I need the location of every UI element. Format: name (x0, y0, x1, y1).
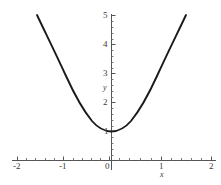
y-axis-label: y (103, 83, 107, 92)
x-axis (12, 157, 216, 161)
y-tick-label-3: 3 (103, 68, 108, 78)
y-tick-label-4: 4 (103, 39, 108, 49)
plot-canvas (0, 0, 221, 185)
x-tick-label-2: 2 (209, 161, 214, 171)
x-axis-label: x (160, 170, 164, 179)
x-tick-label-0: 0 (105, 161, 110, 171)
y-axis (112, 14, 116, 170)
x-tick-label-neg1: -1 (59, 161, 67, 171)
y-tick-label-5: 5 (103, 10, 108, 20)
x-axis-major-ticks (18, 157, 212, 161)
y-tick-label-2: 2 (103, 97, 108, 107)
x-tick-label-neg2: -2 (13, 161, 21, 171)
plot-figure: -2 -1 0 1 2 5 4 3 2 1 y x (0, 0, 221, 185)
y-tick-label-1: 1 (104, 126, 109, 136)
